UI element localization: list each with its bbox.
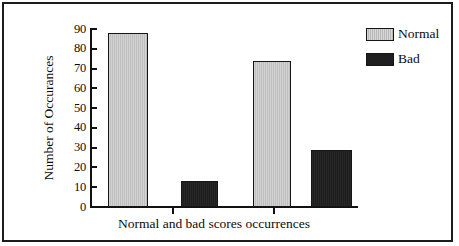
legend-item-bad[interactable]: Bad [366, 51, 439, 67]
y-axis-tick-label-60: 60 [56, 82, 86, 95]
y-axis-tick-mark-90 [92, 28, 97, 30]
legend-swatch-normal [366, 28, 394, 41]
y-axis-tick-mark-80 [92, 48, 97, 50]
y-axis-tick-mark-30 [92, 147, 97, 149]
y-axis-tick-label-20: 20 [56, 161, 86, 174]
chart-legend: NormalBad [366, 26, 439, 76]
legend-item-normal[interactable]: Normal [366, 26, 439, 42]
legend-label-bad: Bad [398, 52, 420, 66]
bar-normal-3[interactable] [253, 61, 291, 207]
y-axis-tick-mark-40 [92, 127, 97, 129]
y-axis-line [90, 28, 92, 208]
y-axis-tick-mark-20 [92, 166, 97, 168]
x-axis-tick-mark-1 [172, 208, 174, 214]
x-axis-title: Normal and bad scores occurrences [64, 216, 364, 232]
bar-bad-4[interactable] [311, 150, 352, 207]
y-axis-title: Number of Occurances [41, 33, 57, 203]
y-axis-tick-label-40: 40 [56, 121, 86, 134]
y-axis-tick-mark-60 [92, 87, 97, 89]
y-axis-tick-label-80: 80 [56, 42, 86, 55]
chart-figure-frame: Number of Occurances 0102030405060708090… [2, 2, 453, 242]
y-axis-tick-mark-10 [92, 186, 97, 188]
y-axis-tick-label-50: 50 [56, 102, 86, 115]
y-axis-tick-mark-70 [92, 68, 97, 70]
x-axis-tick-mark-2 [273, 208, 275, 214]
y-axis-tick-label-90: 90 [56, 23, 86, 36]
legend-swatch-bad [366, 53, 394, 66]
bar-normal-1[interactable] [108, 33, 148, 207]
legend-label-normal: Normal [398, 27, 439, 41]
y-axis-tick-label-70: 70 [56, 62, 86, 75]
chart-canvas: Number of Occurances 0102030405060708090… [4, 4, 451, 240]
y-axis-tick-label-0: 0 [56, 201, 86, 214]
bar-bad-2[interactable] [181, 181, 218, 207]
y-axis-tick-mark-50 [92, 107, 97, 109]
y-axis-tick-mark-0 [92, 206, 97, 208]
y-axis-tick-label-30: 30 [56, 141, 86, 154]
y-axis-tick-label-10: 10 [56, 181, 86, 194]
